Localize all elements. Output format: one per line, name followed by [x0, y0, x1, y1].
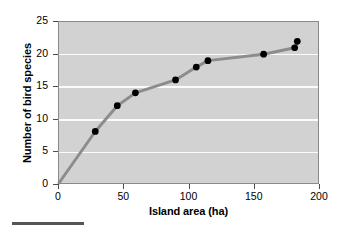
data-point	[291, 44, 298, 51]
y-axis-tick-label: 10	[8, 112, 48, 124]
y-axis-title: Number of bird species	[21, 13, 33, 193]
data-point	[92, 128, 99, 135]
x-axis-tick	[254, 184, 255, 189]
data-layer	[59, 22, 318, 183]
data-point	[132, 89, 139, 96]
y-axis-tick	[53, 151, 58, 152]
y-axis-tick	[53, 54, 58, 55]
x-axis-tick-label: 50	[103, 190, 143, 202]
y-axis-tick-label: 20	[8, 47, 48, 59]
y-axis-tick-label: 25	[8, 14, 48, 26]
data-point	[193, 64, 200, 71]
x-axis-tick	[123, 184, 124, 189]
y-axis-tick-label: 0	[8, 177, 48, 189]
data-point	[260, 51, 267, 58]
series-line	[59, 41, 297, 183]
data-point	[114, 102, 121, 109]
x-axis-tick-label: 200	[299, 190, 339, 202]
y-axis-tick-label: 5	[8, 144, 48, 156]
data-point	[294, 38, 301, 45]
y-axis-tick	[53, 86, 58, 87]
y-axis-tick	[53, 119, 58, 120]
y-axis-tick	[53, 21, 58, 22]
x-axis-tick-label: 150	[234, 190, 274, 202]
plot-area	[58, 21, 319, 184]
x-axis-tick-label: 100	[169, 190, 209, 202]
data-point	[172, 77, 179, 84]
x-axis-title: Island area (ha)	[58, 205, 319, 217]
chart-figure: Number of bird species 0510152025 050100…	[0, 0, 339, 234]
x-axis-tick-label: 0	[38, 190, 78, 202]
data-point	[205, 57, 212, 64]
x-axis-tick	[319, 184, 320, 189]
y-axis-tick-label: 15	[8, 79, 48, 91]
x-axis-tick	[58, 184, 59, 189]
x-axis-tick	[189, 184, 190, 189]
bottom-rule	[12, 222, 84, 225]
